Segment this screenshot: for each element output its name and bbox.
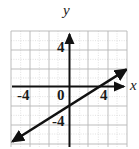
x-tick-label-negative-four: -4 [17, 88, 30, 103]
x-axis-label: x [130, 78, 137, 93]
y-axis-label: y [63, 3, 70, 18]
y-tick-label-positive-four: 4 [57, 40, 65, 55]
coordinate-plane [0, 0, 139, 149]
origin-label: 0 [57, 88, 65, 103]
x-tick-label-positive-four: 4 [100, 88, 108, 103]
y-tick-label-negative-four: -4 [52, 114, 65, 129]
graph-figure: y x -4 0 4 4 -4 [0, 0, 139, 149]
